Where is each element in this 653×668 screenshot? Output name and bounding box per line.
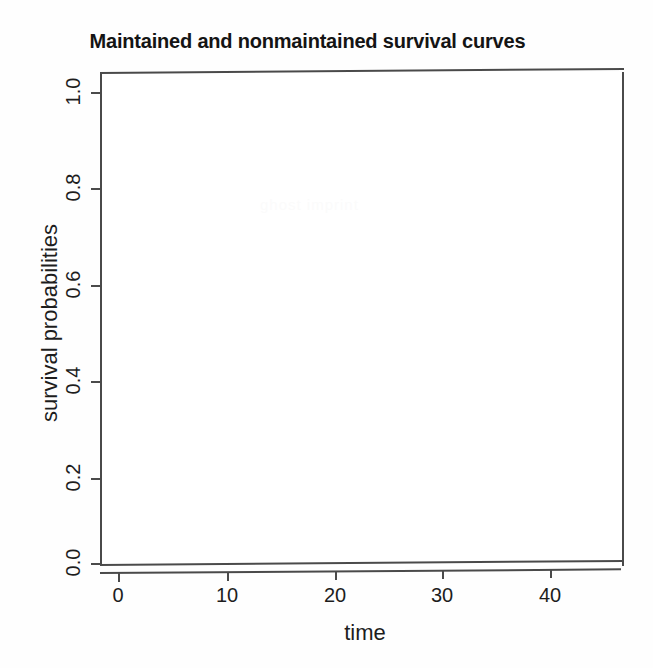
figure-canvas: Maintained and nonmaintained survival cu… bbox=[0, 0, 653, 668]
y-tick-label-0-2: 0.2 bbox=[62, 463, 85, 493]
y-tick-label-1-0: 1.0 bbox=[62, 77, 85, 107]
plot-frame-top-edge bbox=[100, 68, 624, 74]
y-tick-mark-0-2 bbox=[91, 478, 100, 480]
x-tick-mark-30 bbox=[442, 570, 444, 579]
plot-region: ghost imprint bbox=[100, 72, 624, 566]
x-tick-label-20: 20 bbox=[305, 584, 365, 607]
x-tick-mark-20 bbox=[335, 571, 337, 580]
x-tick-mark-40 bbox=[550, 569, 552, 578]
x-tick-mark-0 bbox=[118, 573, 120, 582]
y-tick-label-0-6: 0.6 bbox=[62, 270, 85, 300]
y-tick-mark-0-4 bbox=[91, 381, 100, 383]
y-tick-mark-0-6 bbox=[91, 285, 100, 287]
x-tick-mark-10 bbox=[227, 572, 229, 581]
plot-frame-right-edge bbox=[622, 72, 624, 566]
x-tick-label-0: 0 bbox=[88, 584, 148, 607]
y-tick-label-0-0: 0.0 bbox=[62, 548, 85, 578]
y-tick-mark-1-0 bbox=[91, 92, 100, 94]
y-tick-label-0-4: 0.4 bbox=[62, 366, 85, 396]
y-tick-label-0-8: 0.8 bbox=[62, 173, 85, 203]
y-tick-mark-0-0 bbox=[91, 563, 100, 565]
x-tick-label-30: 30 bbox=[412, 584, 472, 607]
x-axis-line bbox=[100, 568, 621, 574]
plot-frame-left-edge bbox=[100, 72, 102, 566]
x-tick-label-10: 10 bbox=[197, 584, 257, 607]
x-axis-title: time bbox=[305, 620, 425, 646]
y-tick-mark-0-8 bbox=[91, 188, 100, 190]
page-title: Maintained and nonmaintained survival cu… bbox=[0, 30, 615, 53]
y-axis-title: survival probabilities bbox=[37, 178, 63, 468]
x-tick-label-40: 40 bbox=[520, 584, 580, 607]
scan-artifact-text: ghost imprint bbox=[260, 196, 359, 213]
plot-frame-bottom-edge bbox=[100, 560, 624, 566]
